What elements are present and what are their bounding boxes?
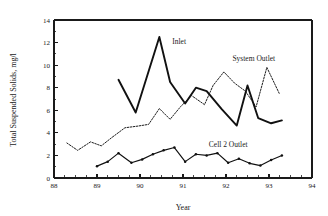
series-point-cell-2-outlet: [141, 158, 144, 161]
y-tick-label: 4: [47, 129, 51, 137]
series-annotation-cell-2-outlet: Cell 2 Outlet: [209, 140, 249, 149]
x-tick-label: 92: [223, 182, 231, 190]
series-point-cell-2-outlet: [195, 153, 198, 156]
x-tick-label: 91: [180, 182, 188, 190]
x-tick-label: 93: [266, 182, 274, 190]
x-tick-label: 88: [51, 182, 59, 190]
y-tick-label: 2: [47, 152, 51, 160]
series-point-cell-2-outlet: [130, 162, 133, 165]
series-point-cell-2-outlet: [184, 160, 187, 163]
series-line-cell-2-outlet: [97, 148, 282, 167]
series-point-cell-2-outlet: [238, 158, 241, 161]
x-tick-label: 90: [137, 182, 145, 190]
series-point-cell-2-outlet: [107, 160, 110, 163]
series-point-cell-2-outlet: [227, 162, 230, 165]
series-point-cell-2-outlet: [270, 159, 273, 162]
y-axis-tick-labels: 02468101214: [43, 17, 51, 183]
y-tick-label: 6: [47, 107, 51, 115]
chart-figure: 02468101214 88899091929394 InletSystem O…: [0, 0, 328, 216]
x-axis-ticks: [54, 174, 312, 179]
y-axis-ticks: [54, 20, 58, 178]
series-point-cell-2-outlet: [96, 165, 99, 168]
series-annotations: InletSystem OutletCell 2 Outlet: [172, 37, 276, 149]
x-tick-label: 89: [94, 182, 102, 190]
series-point-cell-2-outlet: [216, 152, 219, 155]
series-point-cell-2-outlet: [152, 153, 155, 156]
series-annotation-system-outlet: System Outlet: [232, 54, 276, 63]
y-tick-label: 12: [43, 39, 51, 47]
series-annotation-inlet: Inlet: [172, 37, 187, 46]
series-point-cell-2-outlet: [248, 162, 251, 165]
series-line-inlet: [119, 37, 282, 126]
series-point-cell-2-outlet: [205, 154, 208, 157]
series-point-cell-2-outlet: [162, 149, 165, 152]
y-tick-label: 10: [43, 62, 51, 70]
y-axis-title: Total Suspended Solids, mg/l: [9, 52, 18, 146]
y-tick-label: 8: [47, 84, 51, 92]
x-axis-title: Year: [176, 203, 191, 212]
series-point-cell-2-outlet: [281, 154, 284, 157]
series-line-system-outlet: [67, 67, 280, 150]
y-tick-label: 14: [43, 17, 51, 25]
series-point-cell-2-outlet: [173, 146, 176, 149]
x-axis-tick-labels: 88899091929394: [51, 182, 317, 190]
series-point-cell-2-outlet: [259, 164, 262, 167]
x-tick-label: 94: [309, 182, 317, 190]
chart-canvas: 02468101214 88899091929394 InletSystem O…: [0, 0, 328, 216]
series-point-cell-2-outlet: [117, 152, 120, 155]
